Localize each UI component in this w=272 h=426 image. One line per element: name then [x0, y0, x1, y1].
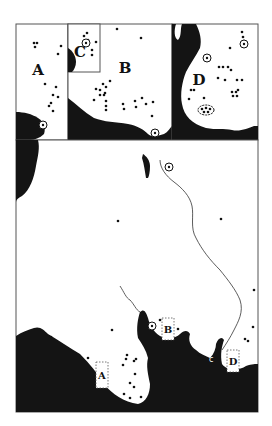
site-dot-icon: [33, 42, 36, 45]
inset-label-d: D: [192, 71, 205, 89]
site-dot-icon: [141, 97, 144, 100]
site-dot-icon: [87, 357, 90, 360]
site-dot-icon: [122, 103, 125, 106]
site-dot-icon: [102, 83, 105, 86]
site-dot-icon: [229, 47, 232, 50]
site-dot-icon: [122, 364, 125, 367]
site-dot-icon: [140, 396, 143, 399]
site-dot-icon: [135, 106, 138, 109]
site-dot-icon: [95, 41, 98, 44]
archaeological-site-map: ACBDABDc: [0, 0, 272, 426]
site-cluster-icon: [198, 105, 214, 115]
site-dot-icon: [117, 220, 120, 223]
site-dot-icon: [134, 100, 137, 103]
site-dot-icon: [205, 107, 208, 110]
site-dot-icon: [232, 95, 235, 98]
site-dot-icon: [116, 28, 119, 31]
site-dot-icon: [134, 373, 137, 376]
site-dot-icon: [129, 382, 132, 385]
site-dot-icon: [91, 54, 94, 57]
site-dot-icon: [140, 37, 143, 40]
site-dot-icon: [201, 108, 204, 111]
site-dot-icon: [55, 86, 58, 89]
site-dot-icon: [253, 289, 256, 292]
site-dot-icon: [126, 354, 129, 357]
site-dot-icon: [152, 101, 155, 104]
site-dot-icon: [177, 328, 180, 331]
site-dot-icon: [60, 45, 63, 48]
site-dot-icon: [95, 88, 98, 91]
site-dot-icon: [105, 109, 108, 112]
site-dot-icon: [244, 338, 247, 341]
site-dot-icon: [227, 66, 230, 69]
site-dot-icon: [99, 94, 102, 97]
site-dot-icon: [93, 99, 96, 102]
site-dot-icon: [133, 360, 136, 363]
inset-label-a: A: [31, 61, 44, 79]
site-dot-icon: [217, 77, 220, 80]
settlement-center-icon: [151, 325, 153, 327]
site-dot-icon: [123, 393, 126, 396]
site-dot-icon: [50, 102, 53, 105]
site-dot-icon: [50, 336, 53, 339]
site-dot-icon: [203, 111, 206, 114]
inset-marker-label: B: [164, 324, 172, 335]
site-dot-icon: [222, 66, 225, 69]
site-dot-icon: [193, 89, 196, 92]
site-dot-icon: [242, 36, 245, 39]
site-dot-icon: [190, 89, 193, 92]
site-dot-icon: [91, 49, 94, 52]
site-dot-icon: [52, 94, 55, 97]
settlement-center-icon: [243, 43, 245, 45]
site-dot-icon: [236, 95, 239, 98]
site-dot-icon: [203, 97, 206, 100]
site-dot-icon: [83, 35, 86, 38]
site-dot-icon: [252, 326, 255, 329]
site-dot-icon: [237, 89, 240, 92]
site-dot-icon: [125, 358, 128, 361]
inset-marker-label: D: [229, 356, 238, 367]
site-dot-icon: [135, 358, 138, 361]
settlement-center-icon: [154, 132, 156, 134]
site-dot-icon: [218, 66, 221, 69]
site-dot-icon: [241, 31, 244, 34]
site-dot-icon: [105, 105, 108, 108]
site-dot-icon: [34, 46, 37, 49]
site-dot-icon: [52, 110, 55, 113]
site-dot-icon: [111, 329, 114, 332]
site-dot-icon: [44, 83, 47, 86]
site-dot-icon: [236, 79, 239, 82]
site-dot-icon: [151, 115, 154, 118]
site-dot-icon: [105, 100, 108, 103]
inset-marker-label-c: c: [209, 355, 213, 364]
site-dot-icon: [241, 79, 244, 82]
inset-label-c: C: [74, 43, 86, 61]
site-dot-icon: [230, 69, 233, 72]
site-dot-icon: [129, 397, 132, 400]
main-map-panel: [16, 140, 258, 412]
site-dot-icon: [224, 79, 227, 82]
site-dot-icon: [48, 105, 51, 108]
site-dot-icon: [57, 53, 60, 56]
site-dot-icon: [209, 108, 212, 111]
site-dot-icon: [123, 108, 126, 111]
settlement-center-icon: [206, 57, 208, 59]
site-dot-icon: [198, 354, 201, 357]
site-dot-icon: [145, 103, 148, 106]
site-dot-icon: [188, 98, 191, 101]
site-dot-icon: [247, 340, 250, 343]
site-dot-icon: [207, 111, 210, 114]
site-dot-icon: [109, 80, 112, 83]
site-dot-icon: [57, 96, 60, 99]
site-dot-icon: [36, 42, 39, 45]
site-dot-icon: [159, 319, 162, 322]
settlement-center-icon: [168, 166, 170, 168]
inset-label-b: B: [119, 59, 132, 77]
site-dot-icon: [133, 386, 136, 389]
site-dot-icon: [220, 218, 223, 221]
inset-marker-label: A: [97, 370, 106, 381]
settlement-center-icon: [42, 124, 44, 126]
site-dot-icon: [231, 91, 234, 94]
site-dot-icon: [235, 91, 238, 94]
site-dot-icon: [99, 89, 102, 92]
